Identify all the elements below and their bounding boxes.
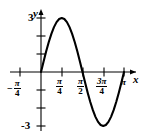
chart-canvas: [0, 0, 144, 135]
fraction-denominator: 4: [56, 87, 63, 96]
fraction-denominator: 4: [96, 87, 107, 96]
x-axis-label: x: [133, 74, 139, 85]
x-tick-label-pi-over-2: π2: [77, 77, 84, 97]
x-tick-label-pi: π: [121, 78, 126, 87]
sine-graph-figure: y x 3 -3 −π4 π4 π2 3π4 π: [0, 0, 144, 135]
fraction-numerator: π: [56, 77, 63, 86]
y-tick-label-3: 3: [28, 12, 34, 23]
y-tick-label-neg3: -3: [21, 120, 30, 131]
fraction-numerator: π: [14, 79, 21, 88]
fraction-denominator: 2: [77, 87, 84, 96]
x-tick-label-pi-over-4: π4: [56, 77, 63, 97]
fraction-pi-over-4: π4: [56, 77, 63, 97]
fraction-numerator: π: [77, 77, 84, 86]
fraction-3pi-over-4: 3π4: [96, 77, 107, 97]
minus-sign-neg-pi-over-4: −: [7, 84, 13, 94]
fraction-pi-over-2: π2: [77, 77, 84, 97]
fraction-denominator: 4: [14, 89, 21, 98]
x-tick-label-3pi-over-4: 3π4: [96, 77, 107, 97]
x-tick-label-neg-pi-over-4: −π4: [7, 79, 21, 99]
fraction-numerator: 3π: [96, 77, 107, 86]
y-axis-arrowhead: [39, 9, 44, 15]
fraction-neg-pi-over-4: π4: [14, 79, 21, 99]
